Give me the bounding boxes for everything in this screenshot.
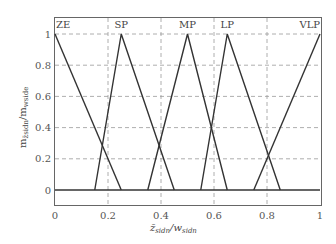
series-labels: ZESPMPLPVLP: [56, 19, 320, 30]
series-lp: [201, 34, 281, 190]
plot-frame: [55, 18, 322, 206]
x-tick-label: 0: [52, 210, 58, 221]
x-tick-label: 0.4: [153, 210, 169, 221]
grid-lines: [55, 18, 321, 205]
series-label-sp: SP: [114, 19, 128, 30]
series-label-ze: ZE: [56, 19, 70, 30]
series-lines: [55, 34, 320, 190]
y-tick-label: 0.4: [35, 122, 51, 133]
membership-function-chart: 00.20.40.60.81 00.20.40.60.81 ZESPMPLPVL…: [0, 0, 336, 244]
x-tick-labels: 00.20.40.60.81: [52, 210, 323, 221]
series-label-vlp: VLP: [298, 19, 320, 30]
y-tick-label: 0.2: [35, 153, 51, 164]
series-label-lp: LP: [221, 19, 235, 30]
series-sp: [95, 34, 175, 190]
y-tick-label: 0: [45, 185, 51, 196]
series-vlp: [254, 34, 320, 190]
x-tick-label: 0.8: [259, 210, 275, 221]
y-tick-label: 0.8: [35, 60, 51, 71]
y-tick-label: 1: [45, 29, 51, 40]
x-axis-label: z̄sidn/wsidn: [149, 222, 197, 235]
x-tick-label: 0.2: [100, 210, 116, 221]
x-tick-label: 0.6: [206, 210, 222, 221]
y-axis-label: mz̄sidn/mwside: [17, 87, 30, 148]
series-label-mp: MP: [179, 19, 196, 30]
series-ze: [55, 34, 121, 190]
y-tick-labels: 00.20.40.60.81: [35, 29, 51, 196]
series-mp: [148, 34, 228, 190]
x-tick-label: 1: [317, 210, 323, 221]
y-tick-label: 0.6: [35, 91, 51, 102]
